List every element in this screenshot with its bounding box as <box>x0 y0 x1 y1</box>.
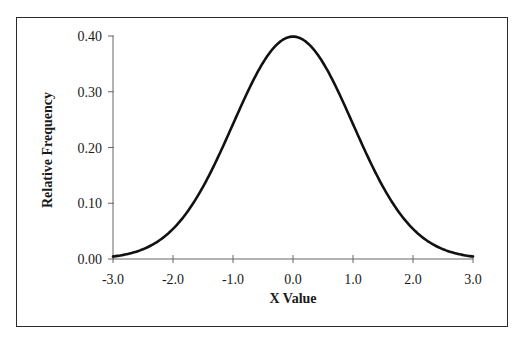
y-axis: 0.000.100.200.300.40 <box>78 29 115 267</box>
x-tick-label: 2.0 <box>404 272 422 287</box>
x-tick-label: -2.0 <box>162 272 184 287</box>
y-axis-title: Relative Frequency <box>40 92 55 208</box>
x-axis: -3.0-2.0-1.00.01.02.03.0 <box>102 255 482 287</box>
x-axis-title: X Value <box>269 291 316 306</box>
y-tick-label: 0.20 <box>78 141 103 156</box>
y-tick-label: 0.10 <box>78 196 103 211</box>
x-tick-label: -3.0 <box>102 272 124 287</box>
x-tick-label: -1.0 <box>222 272 244 287</box>
x-tick-label: 0.0 <box>284 272 302 287</box>
y-tick-label: 0.00 <box>78 252 103 267</box>
density-curve <box>113 37 473 257</box>
x-tick-label: 1.0 <box>344 272 362 287</box>
normal-distribution-chart: 0.000.100.200.300.40 -3.0-2.0-1.00.01.02… <box>0 0 524 347</box>
x-tick-label: 3.0 <box>464 272 482 287</box>
y-tick-label: 0.40 <box>78 29 103 44</box>
y-tick-label: 0.30 <box>78 85 103 100</box>
